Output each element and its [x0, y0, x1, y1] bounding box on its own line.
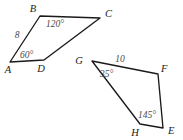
angle-label-b: 120° — [46, 19, 64, 29]
vertex-label-e: E — [167, 125, 175, 136]
side-label-gf: 10 — [115, 54, 125, 64]
vertex-label-f: F — [160, 63, 168, 74]
side-label-ab: 8 — [15, 30, 20, 40]
geometry-canvas: A B C D 120° 60° 8 G F E H 35° 145° 10 — [0, 0, 183, 140]
vertex-label-c: C — [105, 8, 113, 19]
angle-label-g: 35° — [99, 69, 114, 79]
vertex-label-h: H — [130, 127, 140, 138]
angle-label-h: 145° — [138, 110, 156, 120]
vertex-label-b: B — [30, 3, 37, 14]
quadrilateral-abcd: A B C D 120° 60° 8 — [4, 3, 113, 75]
vertex-label-a: A — [4, 64, 12, 75]
vertex-label-g: G — [75, 55, 83, 66]
quadrilateral-gfeh: G F E H 35° 145° 10 — [75, 54, 175, 138]
geometry-figure: A B C D 120° 60° 8 G F E H 35° 145° 10 — [0, 0, 183, 140]
vertex-label-d: D — [36, 63, 45, 74]
angle-label-a: 60° — [20, 50, 34, 60]
